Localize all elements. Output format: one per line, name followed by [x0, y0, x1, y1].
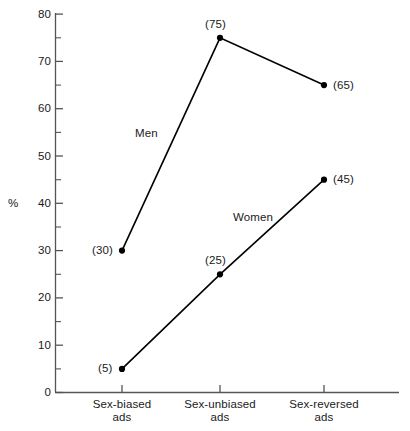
- y-tick-label-20: 20: [25, 292, 51, 304]
- data-label-men-1: (75): [205, 19, 226, 31]
- x-tick-label-line-1: Sex-reversed: [269, 398, 379, 411]
- series-markers-men: [119, 35, 327, 254]
- x-axis-ticks: [122, 385, 324, 393]
- x-tick-label-line-2: ads: [165, 411, 275, 424]
- x-tick-label-sex-reversed: Sex-reversed ads: [269, 398, 379, 424]
- y-tick-label-0: 0: [25, 387, 51, 399]
- data-label-women-0: (5): [98, 363, 112, 375]
- y-axis-major-ticks: [56, 14, 64, 392]
- data-point-men-0: [119, 248, 125, 254]
- data-point-men-1: [217, 35, 223, 41]
- y-axis-title: %: [8, 198, 18, 210]
- plot-area: [0, 0, 410, 431]
- y-tick-label-60: 60: [25, 103, 51, 115]
- y-tick-label-70: 70: [25, 56, 51, 68]
- data-label-men-0: (30): [92, 245, 113, 257]
- y-tick-label-40: 40: [25, 198, 51, 210]
- series-label-women: Women: [233, 212, 273, 224]
- y-tick-label-80: 80: [25, 9, 51, 21]
- data-point-women-0: [119, 366, 125, 372]
- x-tick-label-line-1: Sex-unbiased: [165, 398, 275, 411]
- y-tick-label-50: 50: [25, 151, 51, 163]
- x-tick-label-line-1: Sex-biased: [67, 398, 177, 411]
- data-point-men-2: [321, 82, 327, 88]
- data-point-women-2: [321, 177, 327, 183]
- x-tick-label-sex-biased: Sex-biased ads: [67, 398, 177, 424]
- y-tick-label-10: 10: [25, 340, 51, 352]
- x-tick-label-sex-unbiased: Sex-unbiased ads: [165, 398, 275, 424]
- line-chart: % 0 10 20 30 40 50 60 70 80 Sex-biased a…: [0, 0, 410, 431]
- x-tick-label-line-2: ads: [269, 411, 379, 424]
- series-line-men: [122, 38, 324, 251]
- data-label-men-2: (65): [333, 80, 354, 92]
- x-tick-label-line-2: ads: [67, 411, 177, 424]
- y-tick-label-30: 30: [25, 245, 51, 257]
- data-label-women-1: (25): [205, 255, 226, 267]
- data-point-women-1: [217, 271, 223, 277]
- series-label-men: Men: [135, 128, 158, 140]
- data-label-women-2: (45): [333, 174, 354, 186]
